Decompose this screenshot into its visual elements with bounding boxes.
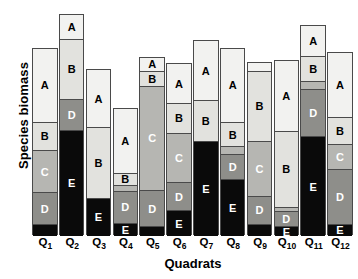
segment-label: A (140, 59, 164, 70)
segment-q11-species-b: B (301, 57, 325, 83)
segment-label: B (114, 174, 138, 185)
x-tick-q11: Q11 (300, 236, 327, 248)
bar-q2: ABDE (59, 14, 85, 235)
x-tick-q12: Q12 (327, 236, 354, 248)
segment-q6-species-a: A (167, 64, 191, 103)
segment-label: D (33, 203, 57, 214)
segment-q9-species-e (248, 225, 272, 236)
segment-q3-species-b: B (87, 128, 111, 199)
segment-q10-species-e: E (275, 227, 299, 236)
segment-label: C (248, 163, 272, 174)
segment-label: C (167, 153, 191, 164)
segment-q2-species-a: A (60, 15, 84, 40)
segment-q5-species-d: D (140, 191, 164, 227)
segment-q1-species-a: A (33, 49, 57, 123)
x-tick-subscript: 1 (48, 241, 53, 251)
segment-label: B (275, 164, 299, 175)
segment-q6-species-e: E (167, 211, 191, 236)
segment-q5-species-c: C (140, 87, 164, 191)
x-tick-q2: Q2 (59, 236, 86, 248)
segment-label: B (194, 116, 218, 127)
segment-q9-species-d: D (248, 197, 272, 225)
x-tick-base: Q (92, 236, 101, 248)
x-tick-subscript: 8 (235, 241, 240, 251)
segment-q2-species-d: D (60, 100, 84, 130)
segment-q4-species-a: A (114, 109, 138, 174)
segment-label: E (328, 225, 352, 236)
segment-label: D (114, 202, 138, 213)
segment-label: B (328, 126, 352, 137)
segment-q3-species-e: E (87, 199, 111, 236)
segment-label: B (140, 74, 164, 85)
x-tick-base: Q (278, 236, 287, 248)
x-tick-subscript: 2 (74, 241, 79, 251)
x-tick-q1: Q1 (32, 236, 59, 248)
segment-label: E (275, 227, 299, 236)
x-tick-base: Q (146, 236, 155, 248)
segment-q12-species-d: D (328, 170, 352, 225)
segment-q9-species-c: C (248, 142, 272, 197)
x-tick-subscript: 12 (340, 241, 349, 251)
segment-label: C (33, 166, 57, 177)
segment-q6-species-b: B (167, 104, 191, 134)
x-tick-base: Q (39, 236, 48, 248)
segment-q4-species-b: B (114, 174, 138, 185)
segment-q5-species-b: B (140, 72, 164, 87)
segment-label: A (194, 65, 218, 76)
segment-label: A (167, 78, 191, 89)
bar-q3: ABE (86, 69, 112, 235)
segment-label: B (33, 131, 57, 142)
segment-q12-species-b: B (328, 118, 352, 145)
segment-q1-species-e (33, 225, 57, 236)
x-axis-title: Quadrats (32, 256, 354, 271)
segment-q12-species-a: A (328, 53, 352, 118)
x-tick-q10: Q10 (274, 236, 301, 248)
segment-q8-species-b: B (221, 123, 245, 148)
segment-q10-species-d: D (275, 212, 299, 227)
segment-label: C (140, 133, 164, 144)
segment-label: A (60, 21, 84, 32)
segment-q1-species-b: B (33, 123, 57, 151)
segment-q3-species-a: A (87, 70, 111, 128)
segment-label: D (221, 162, 245, 173)
segment-q12-species-c: C (328, 145, 352, 170)
x-tick-q4: Q4 (113, 236, 140, 248)
x-tick-q9: Q9 (247, 236, 274, 248)
segment-q8-species-d: D (221, 155, 245, 180)
bar-q11: ABDE (300, 25, 326, 235)
segment-q11-species-a: A (301, 26, 325, 56)
segment-label: C (328, 151, 352, 162)
bar-q4: ABDE (113, 108, 139, 235)
x-tick-q8: Q8 (220, 236, 247, 248)
segment-label: A (114, 136, 138, 147)
segment-q8-species-a: A (221, 49, 245, 123)
x-tick-base: Q (253, 236, 262, 248)
x-tick-q5: Q5 (139, 236, 166, 248)
x-tick-q7: Q7 (193, 236, 220, 248)
x-tick-base: Q (305, 236, 314, 248)
segment-q11-species-d: D (301, 90, 325, 137)
segment-q4-species-d: D (114, 192, 138, 223)
segment-label: A (301, 35, 325, 46)
x-tick-q6: Q6 (166, 236, 193, 248)
bar-q1: ABCD (32, 48, 58, 235)
x-tick-base: Q (200, 236, 209, 248)
segment-q9-species-a (248, 63, 272, 72)
segment-label: E (301, 181, 325, 192)
segment-label: E (114, 224, 138, 235)
x-tick-subscript: 3 (101, 241, 106, 251)
segment-label: A (33, 80, 57, 91)
x-tick-subscript: 7 (209, 241, 214, 251)
segment-label: D (140, 203, 164, 214)
segment-q2-species-e: E (60, 131, 84, 236)
segment-label: D (301, 108, 325, 119)
plot-area: ABCDABDEABEABDEABCDABCDEABEABDEBCDABDEAB… (32, 8, 354, 235)
segment-q5-species-a: A (140, 58, 164, 73)
segment-label: B (87, 158, 111, 169)
segment-q5-species-e (140, 227, 164, 236)
segment-label: E (221, 202, 245, 213)
x-tick-subscript: 5 (155, 241, 160, 251)
y-axis-title: Species biomass (16, 21, 31, 211)
segment-label: A (221, 80, 245, 91)
segment-q6-species-d: D (167, 183, 191, 211)
